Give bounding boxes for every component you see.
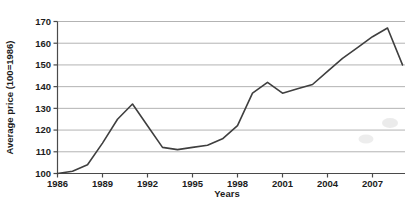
y-tick-label: 130: [35, 103, 51, 114]
x-axis-ticks: 19861989199219951998200120042007: [47, 174, 383, 190]
scan-smudge: [382, 118, 398, 128]
y-tick-label: 150: [35, 59, 51, 70]
x-tick-label: 2004: [317, 178, 339, 189]
price-index-line-chart: 100110120130140150160170 198619891992199…: [0, 0, 413, 217]
y-tick-label: 170: [35, 16, 51, 27]
scan-smudge: [359, 135, 374, 144]
x-tick-label: 2007: [362, 178, 383, 189]
y-tick-label: 140: [35, 81, 51, 92]
axes: [58, 22, 406, 174]
y-tick-label: 110: [36, 146, 51, 157]
chart-figure: 100110120130140150160170 198619891992199…: [0, 0, 413, 217]
y-axis-ticks: 100110120130140150160170: [35, 16, 57, 179]
x-tick-label: 1989: [92, 178, 113, 189]
y-axis-title: Average price (100=1986): [4, 41, 15, 155]
x-tick-label: 1995: [182, 178, 204, 189]
x-axis-title: Years: [214, 188, 239, 199]
x-tick-label: 1986: [47, 178, 68, 189]
x-tick-label: 2001: [272, 178, 294, 189]
x-tick-label: 1992: [137, 178, 158, 189]
y-tick-label: 120: [35, 124, 51, 135]
y-tick-label: 160: [35, 38, 51, 49]
scan-artifacts: [359, 118, 399, 144]
